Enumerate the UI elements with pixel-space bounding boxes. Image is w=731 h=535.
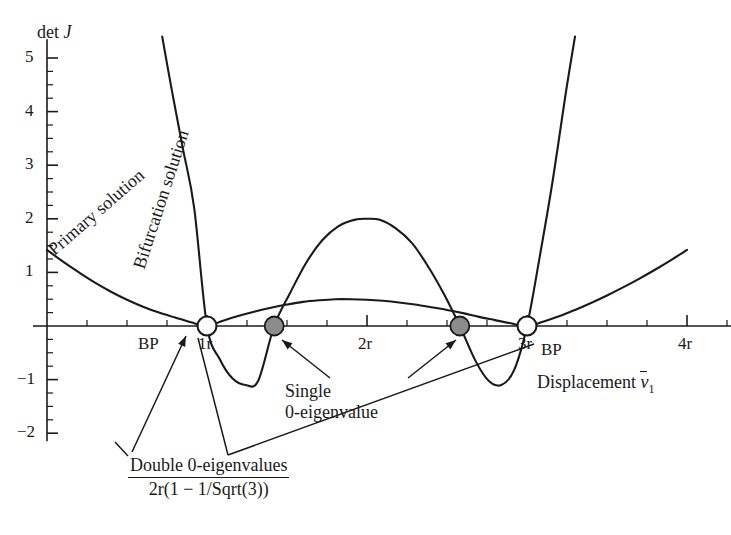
single-zero-eigenvalue-marker	[265, 317, 284, 336]
x-tick-label: 4r	[678, 334, 692, 354]
leader-double-eigenvalue-left-head	[178, 336, 186, 347]
double-eigenvalue-numerator: Double 0-eigenvalues	[128, 455, 289, 478]
y-tick-label: 3	[25, 154, 34, 174]
double-eigenvalue-fraction: Double 0-eigenvalues 2r(1 − 1/Sqrt(3))	[128, 455, 289, 500]
y-axis-title-symbol: J	[64, 22, 72, 42]
branch-point-marker	[198, 317, 217, 336]
double-eigenvalue-annotation: Double 0-eigenvalues 2r(1 − 1/Sqrt(3))	[128, 455, 289, 500]
single-eigenvalue-line2: 0-eigenvalue	[285, 402, 378, 423]
x-axis-title-subscript: 1	[648, 382, 654, 396]
y-tick-label: 4	[25, 101, 34, 121]
single-eigenvalue-line1: Single	[285, 381, 378, 402]
x-axis-title: Displacement v1	[537, 370, 654, 397]
y-axis-title-prefix: det	[37, 22, 59, 42]
x-axis-title-symbol-overbar: v	[640, 370, 648, 393]
y-axis-title: det J	[37, 22, 72, 43]
leader-single-eigenvalue-left-head	[282, 340, 292, 349]
branch-point-marker	[518, 317, 537, 336]
leader-single-eigenvalue-right-head	[446, 340, 456, 349]
x-tick-label: 1r	[198, 334, 212, 354]
leader-double-eigenvalue-to-right-bp	[228, 344, 534, 455]
leader-double-eigenvalue-right	[198, 338, 228, 455]
x-tick-label: 2r	[358, 334, 372, 354]
y-tick-label: 2	[25, 208, 34, 228]
bp-label-right: BP	[541, 340, 562, 360]
single-eigenvalue-annotation: Single 0-eigenvalue	[285, 381, 378, 423]
overbar	[640, 371, 647, 372]
bifurcation-plot	[0, 0, 731, 535]
leader-double-eigenvalue-tail	[115, 442, 128, 456]
y-tick-label: 1	[25, 261, 34, 281]
x-axis-title-prefix: Displacement	[537, 372, 636, 392]
double-eigenvalue-denominator: 2r(1 − 1/Sqrt(3))	[128, 478, 289, 500]
y-tick-label: −2	[17, 422, 35, 442]
bp-label-left: BP	[138, 334, 159, 354]
figure-container: det J Displacement v1 Primary solution B…	[0, 0, 731, 535]
single-zero-eigenvalue-marker	[450, 317, 469, 336]
x-axis-title-symbol: v	[640, 370, 648, 393]
y-tick-label: −1	[17, 369, 35, 389]
x-tick-label: 3r	[518, 334, 532, 354]
y-tick-label: 5	[25, 47, 34, 67]
